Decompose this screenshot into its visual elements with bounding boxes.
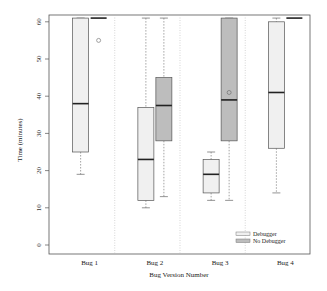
y-tick-label: 20 <box>35 167 43 175</box>
legend-label-debugger: Debugger <box>253 231 277 237</box>
y-tick-label: 10 <box>35 204 43 212</box>
legend-swatch-debugger <box>236 232 250 236</box>
x-tick-label: Bug 4 <box>277 259 294 267</box>
legend-label-no-debugger: No Debugger <box>253 238 286 244</box>
y-tick-label: 30 <box>35 129 43 137</box>
legend-swatch-no-debugger <box>236 239 250 243</box>
box-body <box>73 18 89 152</box>
box-debugger-bug-1 <box>73 18 89 174</box>
y-tick-label: 50 <box>35 55 43 63</box>
x-axis-labels: Bug 1Bug 2Bug 3Bug 4 <box>81 259 294 267</box>
box-body <box>203 159 219 192</box>
box-body <box>268 22 284 148</box>
y-axis: 0102030405060 <box>35 18 49 247</box>
y-axis-title: Time (minutes) <box>16 118 24 162</box>
x-tick-label: Bug 3 <box>212 259 229 267</box>
y-tick-label: 60 <box>35 18 43 26</box>
x-tick-label: Bug 1 <box>81 259 98 267</box>
box-debugger-bug-3 <box>203 152 219 200</box>
x-tick-label: Bug 2 <box>146 259 163 267</box>
box-body <box>138 107 154 200</box>
x-axis-title: Bug Version Number <box>149 271 209 279</box>
y-tick-label: 0 <box>35 243 43 247</box>
box-body <box>156 78 172 141</box>
boxplot-chart: 0102030405060 Bug 1Bug 2Bug 3Bug 4 Bug V… <box>0 0 327 291</box>
y-tick-label: 40 <box>35 92 43 100</box>
box-body <box>221 18 237 141</box>
